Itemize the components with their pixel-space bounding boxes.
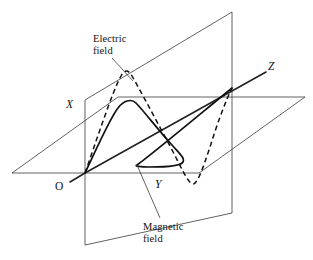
- origin-pointer: [70, 173, 85, 182]
- vertical-plane-edge-top: [85, 12, 232, 100]
- axis-label-x: X: [65, 98, 74, 110]
- axis-label-z: Z: [268, 60, 275, 72]
- origin-label: O: [55, 180, 63, 192]
- axis-label-y: Y: [155, 178, 163, 190]
- electric-field-label: Electric field: [93, 33, 126, 56]
- horizontal-plane: [12, 97, 305, 173]
- horizontal-plane-edge-right: [199, 97, 305, 173]
- electromagnetic-wave-figure: X Y Z O Electric field Magnetic field: [0, 0, 313, 260]
- magnetic-field-label: Magnetic field: [143, 221, 183, 244]
